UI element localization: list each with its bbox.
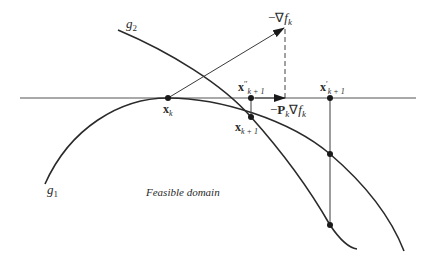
point-x-k (165, 95, 171, 101)
constraint-curve-g2 (118, 30, 357, 249)
point-g2-intersection (327, 222, 333, 228)
constraint-curve-g1 (45, 98, 404, 251)
point-g1-intersection (327, 151, 333, 157)
negative-gradient-arrow (168, 28, 284, 98)
label-x-prime-k1: x′k + 1 (320, 80, 345, 96)
label-g1: g1 (47, 182, 58, 199)
label-g2: g2 (126, 16, 137, 33)
label-negative-gradient: −∇fk (268, 10, 293, 27)
label-x-k: xk (163, 102, 173, 118)
label-projected-gradient: −Pk∇fk (270, 102, 307, 119)
label-x-k1: xk + 1 (235, 120, 258, 136)
label-x-double-prime-k1: x′′k + 1 (238, 80, 264, 96)
point-x-k1 (248, 114, 254, 120)
label-feasible-domain: Feasible domain (145, 186, 220, 198)
gradient-projection-diagram: g2 g1 −∇fk −Pk∇fk xk xk + 1 x′′k + 1 x′k… (0, 0, 432, 261)
